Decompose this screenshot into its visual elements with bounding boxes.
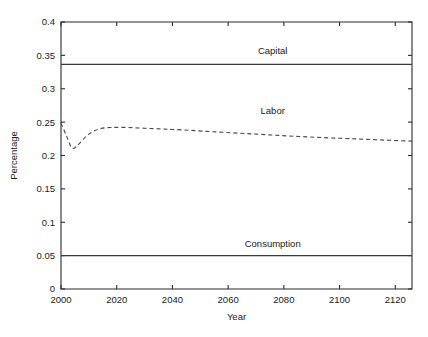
y-ticklabel-0.15: 0.15 [37,183,56,194]
x-axis-ticks [61,22,395,289]
y-ticklabel-0.1: 0.1 [42,217,55,228]
y-ticklabel-0.05: 0.05 [37,250,56,261]
x-ticklabel-2060: 2060 [218,294,239,305]
data-series-group [61,64,412,255]
series-label-labor: Labor [261,105,285,116]
y-ticklabel-0: 0 [50,283,55,294]
x-ticklabel-2080: 2080 [273,294,294,305]
x-ticklabel-2120: 2120 [385,294,406,305]
chart-figure: 00.050.10.150.20.250.30.350.4 2000202020… [0,0,428,337]
series-line-labor [61,123,412,148]
y-ticklabel-0.35: 0.35 [37,50,56,61]
y-axis-ticks [61,22,412,289]
y-ticklabel-0.25: 0.25 [37,117,56,128]
y-axis-tick-labels: 00.050.10.150.20.250.30.350.4 [37,16,56,294]
y-ticklabel-0.4: 0.4 [42,16,55,27]
x-ticklabel-2040: 2040 [162,294,183,305]
x-ticklabel-2020: 2020 [106,294,127,305]
plot-axes [61,22,412,289]
series-label-consumption: Consumption [245,238,301,249]
y-axis-title: Percentage [8,131,19,180]
x-ticklabel-2000: 2000 [50,294,71,305]
line-chart: 00.050.10.150.20.250.30.350.4 2000202020… [0,0,428,337]
y-ticklabel-0.2: 0.2 [42,150,55,161]
x-ticklabel-2100: 2100 [329,294,350,305]
x-axis-tick-labels: 2000202020402060208021002120 [50,294,405,305]
series-label-capital: Capital [258,45,288,56]
x-axis-title: Year [227,311,246,322]
y-ticklabel-0.3: 0.3 [42,83,55,94]
